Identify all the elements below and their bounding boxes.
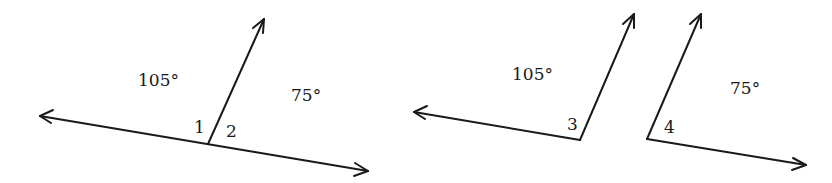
- angle-1-label: 1: [194, 117, 205, 137]
- angle-diagram: 105° 75° 1 2 105° 3 75° 4: [0, 0, 832, 183]
- figure-angle-3: 105° 3: [414, 14, 634, 140]
- angle-4-label: 4: [664, 117, 675, 137]
- angle-3-label: 3: [567, 114, 578, 134]
- figure-angle-4: 75° 4: [647, 14, 806, 170]
- angle-4-measure: 75°: [730, 78, 760, 98]
- angle-1-measure: 105°: [138, 70, 179, 90]
- angle-3-measure: 105°: [512, 64, 553, 84]
- ray-left: [414, 112, 580, 140]
- angle-2-label: 2: [226, 121, 237, 141]
- angle-2-measure: 75°: [291, 85, 321, 105]
- ray-right: [647, 139, 806, 165]
- figure-linear-pair: 105° 75° 1 2: [40, 19, 368, 176]
- ray-up: [580, 14, 634, 140]
